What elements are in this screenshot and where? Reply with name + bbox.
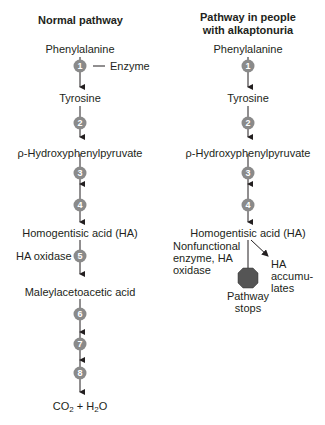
right-title: Pathway in peoplewith alkaptonuria	[200, 11, 296, 37]
step-6: 6	[74, 308, 87, 321]
right-compound-tyrosine: Tyrosine	[227, 92, 269, 105]
accumulate-arrow	[251, 240, 268, 256]
step-3: 3	[74, 167, 87, 180]
step-1: 1	[74, 60, 87, 73]
compound-hydroxyphenylpyruvate: ρ-Hydroxyphenylpyruvate	[18, 147, 143, 160]
right-step-1: 1	[242, 60, 255, 73]
nonfunctional-enzyme-label: Nonfunctionalenzyme, HAoxidase	[173, 240, 240, 276]
pathway-stops-label: Pathwaystops	[227, 290, 269, 314]
right-step-3: 3	[242, 167, 255, 180]
right-compound-homogentisic-acid: Homogentisic acid (HA)	[190, 227, 306, 240]
right-step-2: 2	[242, 117, 255, 130]
pathway-arrows	[0, 0, 325, 425]
step-5: 5	[74, 250, 87, 263]
step-4: 4	[74, 199, 87, 212]
stop-octagon-icon	[238, 268, 258, 288]
step-8: 8	[74, 367, 87, 380]
right-step-4: 4	[242, 199, 255, 212]
step-7: 7	[74, 338, 87, 351]
compound-phenylalanine: Phenylalanine	[45, 43, 114, 56]
left-title: Normal pathway	[38, 14, 123, 27]
ha-oxidase-label: HA oxidase	[16, 250, 72, 263]
enzyme-label: Enzyme	[110, 60, 150, 73]
right-compound-phenylalanine: Phenylalanine	[213, 43, 282, 56]
final-product: CO2 + H2O	[53, 400, 107, 413]
step-2: 2	[74, 117, 87, 130]
compound-maleylacetoacetic-acid: Maleylacetoacetic acid	[25, 286, 136, 299]
compound-homogentisic-acid: Homogentisic acid (HA)	[22, 227, 138, 240]
ha-accumulates-label: HAaccumu-lates	[271, 258, 313, 294]
compound-tyrosine: Tyrosine	[59, 92, 101, 105]
right-compound-hydroxyphenylpyruvate: ρ-Hydroxyphenylpyruvate	[186, 147, 311, 160]
